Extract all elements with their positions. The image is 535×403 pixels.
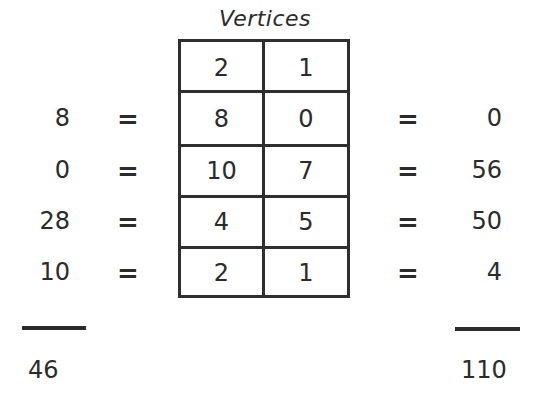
equals-sign: = xyxy=(113,104,143,134)
table-cell: 8 xyxy=(181,93,265,144)
table-cell: 5 xyxy=(265,198,347,246)
left-product: 0 xyxy=(10,156,70,184)
right-product: 56 xyxy=(432,156,502,184)
right-product: 50 xyxy=(432,207,502,235)
right-product: 4 xyxy=(432,258,502,286)
diagram-title: Vertices xyxy=(179,6,351,31)
equals-sign: = xyxy=(393,156,423,186)
table-cell: 7 xyxy=(265,147,347,195)
equals-sign: = xyxy=(393,258,423,288)
equals-sign: = xyxy=(393,207,423,237)
equals-sign: = xyxy=(113,156,143,186)
table-row: 10 7 xyxy=(181,144,347,195)
left-product: 10 xyxy=(10,258,70,286)
table-row: 2 1 xyxy=(181,42,347,93)
equals-sign: = xyxy=(393,104,423,134)
left-product: 8 xyxy=(10,104,70,132)
left-total: 46 xyxy=(28,356,59,384)
table-cell: 10 xyxy=(181,147,265,195)
equals-sign: = xyxy=(113,258,143,288)
table-cell: 1 xyxy=(265,42,347,93)
table-cell: 2 xyxy=(181,42,265,93)
table-cell: 2 xyxy=(181,249,265,297)
table-cell: 4 xyxy=(181,198,265,246)
table-row: 8 0 xyxy=(181,90,347,144)
left-product: 28 xyxy=(10,207,70,235)
equals-sign: = xyxy=(113,207,143,237)
right-sum-line xyxy=(455,327,520,331)
table-row: 4 5 xyxy=(181,195,347,246)
right-product: 0 xyxy=(432,104,502,132)
vertices-table: 2 1 8 0 10 7 4 5 2 1 xyxy=(178,39,350,298)
table-row: 2 1 xyxy=(181,246,347,297)
table-cell: 0 xyxy=(265,93,347,144)
left-sum-line xyxy=(22,326,86,330)
right-total: 110 xyxy=(461,356,507,384)
table-cell: 1 xyxy=(265,249,347,297)
